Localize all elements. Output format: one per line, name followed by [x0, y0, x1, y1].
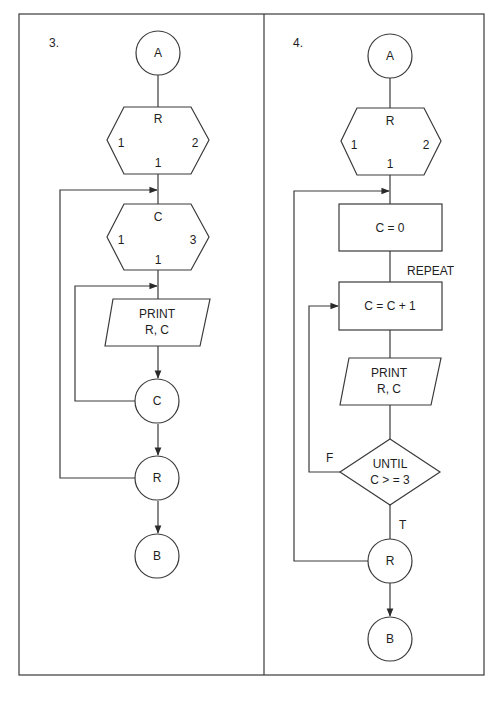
loop-var: R: [154, 112, 163, 126]
print-args: R, C: [145, 323, 169, 337]
panel-4: 4. A R 1 2 1 C = 0 REPEAT C = C + 1 PRIN…: [293, 34, 455, 661]
end-connector-label: B: [386, 632, 394, 646]
panel-number: 3.: [49, 36, 59, 50]
loop-step: 1: [155, 253, 162, 267]
loop-end: 2: [423, 138, 430, 152]
start-connector-label: A: [386, 49, 394, 63]
print-keyword: PRINT: [371, 366, 408, 380]
until-decision-diamond: [340, 439, 440, 505]
loop-start: 1: [351, 138, 358, 152]
loop-end: 2: [192, 136, 199, 150]
false-branch-label: F: [326, 451, 333, 465]
loop-var: C: [154, 210, 163, 224]
start-connector-label: A: [154, 46, 162, 60]
print-args: R, C: [377, 382, 401, 396]
decision-keyword: UNTIL: [373, 457, 408, 471]
loop-end: 3: [190, 233, 197, 247]
repeat-loop-back-arrow: [309, 306, 340, 472]
increment-statement: C = C + 1: [364, 299, 416, 313]
outer-loop-end-label: R: [153, 471, 162, 485]
init-statement: C = 0: [375, 221, 404, 235]
loop-step: 1: [155, 156, 162, 170]
repeat-label: REPEAT: [407, 264, 455, 278]
inner-loop-end-label: C: [153, 394, 162, 408]
loop-start: 1: [118, 233, 125, 247]
outer-loop-end-label: R: [386, 554, 395, 568]
panel-number: 4.: [293, 36, 303, 50]
loop-start: 1: [118, 136, 125, 150]
loop-var: R: [386, 114, 395, 128]
flowchart-canvas: 3. A R 1 2 1 C 1 3 1 PRINT R, C C: [0, 0, 498, 709]
print-keyword: PRINT: [139, 307, 176, 321]
decision-condition: C > = 3: [370, 473, 410, 487]
loop-step: 1: [387, 157, 394, 171]
panel-3: 3. A R 1 2 1 C 1 3 1 PRINT R, C C: [49, 31, 210, 578]
end-connector-label: B: [153, 549, 161, 563]
true-branch-label: T: [399, 518, 407, 532]
